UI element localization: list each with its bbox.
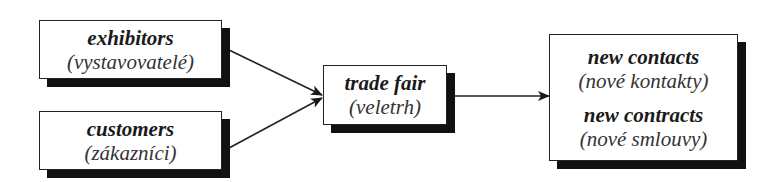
node-title: trade fair bbox=[344, 71, 425, 95]
arrow-customers-to-trade-fair bbox=[229, 98, 322, 148]
arrow-exhibitors-to-trade-fair bbox=[229, 50, 322, 95]
node-trade-fair: trade fair (veletrh) bbox=[323, 65, 447, 125]
outcome-title-contracts: new contracts bbox=[584, 103, 704, 127]
node-customers: customers (zákazníci) bbox=[39, 111, 222, 170]
node-subtitle: (veletrh) bbox=[349, 95, 421, 119]
outcome-subtitle-contracts: (nové smlouvy) bbox=[580, 127, 708, 151]
node-title: exhibitors bbox=[87, 26, 173, 50]
outcome-subtitle-contacts: (nové kontakty) bbox=[578, 69, 708, 93]
node-subtitle: (zákazníci) bbox=[84, 141, 176, 165]
node-outcomes: new contacts (nové kontakty) new contrac… bbox=[549, 34, 738, 161]
node-subtitle: (vystavovatelé) bbox=[67, 50, 194, 74]
node-exhibitors: exhibitors (vystavovatelé) bbox=[39, 20, 222, 79]
outcome-title-contacts: new contacts bbox=[588, 45, 699, 69]
node-title: customers bbox=[87, 117, 175, 141]
